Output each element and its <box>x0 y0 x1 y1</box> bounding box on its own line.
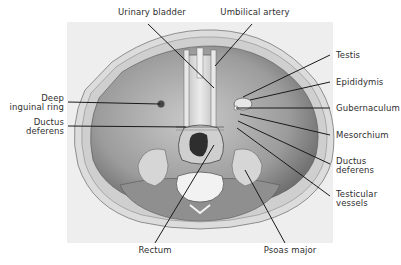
label-epididymis: Epididymis <box>336 78 383 87</box>
label-deep-inguinal-ring: Deep inguinal ring <box>0 94 64 112</box>
label-testicular-vessels: Testicular vessels <box>336 190 377 208</box>
umbilical-artery-right <box>211 50 216 138</box>
label-ductus-deferens-left-line2: deferens <box>0 127 64 136</box>
label-rectum: Rectum <box>125 246 185 255</box>
label-gubernaculum: Gubernaculum <box>336 104 400 113</box>
urachus <box>197 48 203 78</box>
label-ductus-deferens-left: Ductus deferens <box>0 118 64 136</box>
label-testis: Testis <box>336 51 360 60</box>
label-mesorchium: Mesorchium <box>336 131 389 140</box>
label-urinary-bladder: Urinary bladder <box>112 8 192 17</box>
label-psoas-major: Psoas major <box>255 246 325 255</box>
label-deep-inguinal-ring-line2: inguinal ring <box>0 103 64 112</box>
label-ductus-deferens-right: Ductus deferens <box>336 157 374 175</box>
label-testicular-vessels-line2: vessels <box>336 199 377 208</box>
label-ductus-deferens-right-line2: deferens <box>336 166 374 175</box>
vertebral-body <box>176 172 223 202</box>
label-umbilical-artery: Umbilical artery <box>210 8 300 17</box>
